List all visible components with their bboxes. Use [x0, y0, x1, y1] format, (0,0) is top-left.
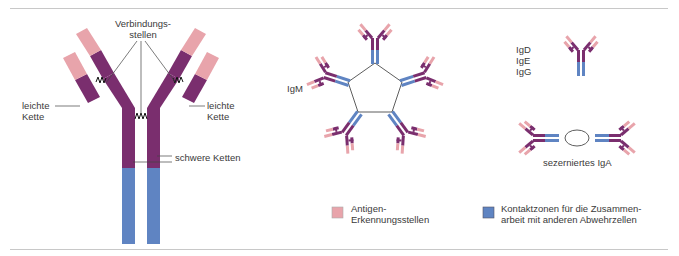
main-antibody [55, 28, 219, 244]
label-light-chain-right: leichte Kette [207, 100, 234, 122]
label-heavy-chains: schwere Ketten [175, 152, 240, 163]
monomer-antibody [561, 35, 600, 76]
legend-label-antigen: Antigen- Erkennungsstellen [351, 203, 429, 225]
label-secreted-iga: sezerniertes IgA [543, 157, 612, 168]
label-igm: IgM [287, 83, 303, 94]
legend-swatch-antigen [332, 207, 343, 218]
label-light-chain-left: leichte Kette [22, 100, 49, 122]
legend-swatch-contact [483, 207, 494, 218]
igm-pentamer [304, 23, 445, 157]
label-igd-ige-igg: IgD IgE IgG [516, 44, 531, 77]
legend-label-contact: Kontaktzonen für die Zusammen- arbeit mi… [501, 203, 641, 225]
label-binding-sites: Verbindungs- stellen [113, 18, 173, 40]
secretory-iga [518, 118, 636, 157]
